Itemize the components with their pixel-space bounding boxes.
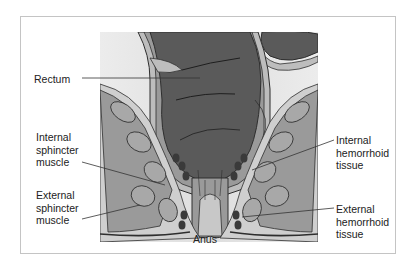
label-external-sphincter-muscle: External sphincter muscle [36, 189, 79, 227]
label-rectum: Rectum [34, 73, 70, 86]
label-internal-hemorrhoid-tissue: Internal hemorrhoid tissue [336, 134, 389, 172]
label-external-hemorrhoid-tissue: External hemorrhoid tissue [336, 203, 389, 241]
label-internal-sphincter-muscle: Internal sphincter muscle [36, 131, 79, 169]
label-anus: Anus [193, 233, 217, 246]
